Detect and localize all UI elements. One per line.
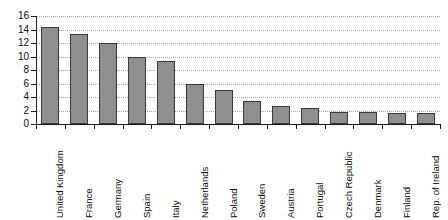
- x-axis-category-labels: United KingdomFranceGermanySpainItalyNet…: [36, 130, 440, 218]
- x-tick-mark: [382, 124, 383, 129]
- x-tick-mark: [267, 124, 268, 129]
- y-tick-label: 0: [3, 119, 29, 129]
- y-tick-mark: [31, 43, 36, 44]
- bar: [330, 112, 348, 124]
- x-tick-mark: [123, 124, 124, 129]
- y-tick-mark: [31, 111, 36, 112]
- x-tick-mark: [411, 124, 412, 129]
- bar: [41, 27, 59, 124]
- x-tick-mark: [238, 124, 239, 129]
- bar: [128, 57, 146, 125]
- y-tick-label: 14: [3, 25, 29, 35]
- y-tick-label: 12: [3, 38, 29, 48]
- bar: [215, 90, 233, 124]
- x-axis-tick-marks: [36, 124, 440, 129]
- bar: [186, 84, 204, 124]
- y-tick-label: 6: [3, 79, 29, 89]
- y-tick-mark: [31, 57, 36, 58]
- x-tick-mark: [296, 124, 297, 129]
- bar: [301, 108, 319, 124]
- x-tick-mark: [209, 124, 210, 129]
- x-tick-mark: [151, 124, 152, 129]
- x-tick-mark: [353, 124, 354, 129]
- x-tick-mark: [36, 124, 37, 129]
- bar: [157, 61, 175, 124]
- y-tick-mark: [31, 124, 36, 125]
- bar-chart: 1614121086420 United KingdomFranceGerman…: [0, 0, 448, 220]
- y-tick-mark: [31, 97, 36, 98]
- bar: [359, 112, 377, 124]
- y-axis-tick-labels: 1614121086420: [0, 0, 29, 220]
- x-tick-mark: [180, 124, 181, 129]
- y-tick-mark: [31, 16, 36, 17]
- bar: [417, 113, 435, 124]
- bars-layer: [36, 16, 440, 124]
- y-tick-label: 8: [3, 65, 29, 75]
- x-tick-mark: [94, 124, 95, 129]
- bar: [99, 43, 117, 124]
- bar: [70, 34, 88, 124]
- y-tick-mark: [31, 30, 36, 31]
- x-tick-mark: [325, 124, 326, 129]
- x-tick-mark: [65, 124, 66, 129]
- y-tick-label: 16: [3, 11, 29, 21]
- x-category-label: Rep. of Ireland: [430, 130, 448, 218]
- y-tick-label: 2: [3, 106, 29, 116]
- y-tick-mark: [31, 84, 36, 85]
- y-tick-label: 4: [3, 92, 29, 102]
- bar: [388, 113, 406, 124]
- y-tick-label: 10: [3, 52, 29, 62]
- bar: [272, 106, 290, 124]
- x-tick-mark: [440, 124, 441, 129]
- y-tick-mark: [31, 70, 36, 71]
- bar: [243, 101, 261, 124]
